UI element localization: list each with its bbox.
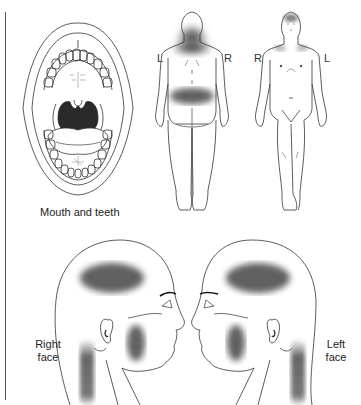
right-face-label: Right face bbox=[30, 338, 66, 364]
pain-zone-right-temple bbox=[80, 263, 144, 293]
back-view-left-marker: L bbox=[157, 52, 163, 64]
mouth-and-teeth-label: Mouth and teeth bbox=[40, 206, 120, 219]
pain-zone-left-cheek bbox=[227, 325, 245, 361]
front-view-right-marker: R bbox=[254, 52, 262, 64]
left-face-profile bbox=[192, 240, 316, 405]
mouth-diagram bbox=[23, 23, 133, 195]
front-view-left-marker: L bbox=[324, 52, 330, 64]
right-face-profile bbox=[55, 240, 184, 405]
back-view-right-marker: R bbox=[224, 52, 232, 64]
pain-zone-right-neck bbox=[80, 340, 94, 405]
pain-zone-right-cheek bbox=[127, 325, 145, 361]
left-face-label-line1: Left bbox=[320, 338, 352, 351]
body-back-view bbox=[155, 12, 228, 210]
pain-zone-lower-back bbox=[170, 88, 214, 104]
left-face-label: Left face bbox=[320, 338, 352, 364]
right-face-label-line2: face bbox=[30, 351, 66, 364]
body-front-view bbox=[255, 12, 326, 210]
pain-zone-upper-back bbox=[170, 40, 214, 56]
pain-zone-left-temple bbox=[226, 263, 290, 293]
pain-zone-left-neck bbox=[291, 340, 305, 405]
pain-zone-forehead bbox=[284, 14, 298, 22]
left-face-label-line2: face bbox=[320, 351, 352, 364]
right-face-label-line1: Right bbox=[30, 338, 66, 351]
pain-referral-figure: Mouth and teeth L R R L Right face Left … bbox=[0, 0, 361, 405]
